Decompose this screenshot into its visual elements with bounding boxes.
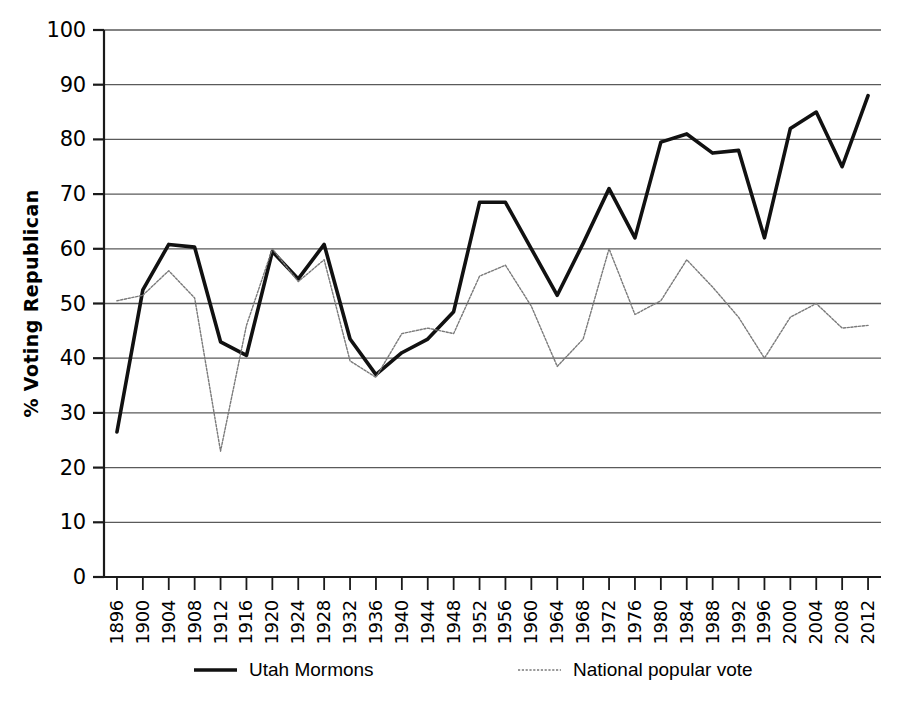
- x-tick-label: 1920: [261, 600, 282, 645]
- y-tick-label: 60: [60, 237, 86, 261]
- x-tick-label: 1908: [184, 600, 205, 645]
- y-axis-label: % Voting Republican: [20, 189, 42, 417]
- chart-legend: Utah MormonsNational popular vote: [194, 659, 753, 680]
- data-series-group: [117, 96, 868, 452]
- y-axis-ticks-group: 0102030405060708090100: [47, 18, 104, 589]
- x-tick-label: 1956: [494, 600, 515, 645]
- series-line-utah-mormons: [117, 96, 868, 432]
- line-chart: 0102030405060708090100 18961900190419081…: [0, 0, 910, 712]
- x-tick-label: 1924: [287, 600, 308, 645]
- x-tick-label: 1928: [313, 600, 334, 645]
- x-tick-label: 1996: [753, 600, 774, 645]
- y-tick-label: 50: [60, 292, 86, 316]
- x-tick-label: 1988: [702, 600, 723, 645]
- x-tick-label: 1980: [650, 600, 671, 645]
- x-tick-label: 1936: [365, 600, 386, 645]
- x-tick-label: 1904: [158, 600, 179, 645]
- x-tick-label: 1952: [469, 600, 490, 645]
- x-tick-label: 1900: [132, 600, 153, 645]
- x-tick-label: 2004: [805, 600, 826, 645]
- x-tick-label: 1976: [624, 600, 645, 645]
- y-tick-label: 80: [60, 127, 86, 151]
- x-tick-label: 1912: [210, 600, 231, 645]
- x-tick-label: 1916: [235, 600, 256, 645]
- legend-label-national-popular-vote: National popular vote: [573, 659, 753, 680]
- x-axis-ticks-group: 1896190019041908191219161920192419281932…: [106, 577, 878, 645]
- legend-label-utah-mormons: Utah Mormons: [249, 659, 374, 680]
- y-tick-label: 70: [60, 182, 86, 206]
- y-tick-label: 10: [60, 510, 86, 534]
- y-tick-label: 100: [47, 18, 86, 42]
- x-tick-label: 2008: [831, 600, 852, 645]
- x-tick-label: 1948: [443, 600, 464, 645]
- gridlines-group: [104, 30, 881, 577]
- y-tick-label: 40: [60, 346, 86, 370]
- x-tick-label: 1896: [106, 600, 127, 645]
- y-tick-label: 30: [60, 401, 86, 425]
- x-tick-label: 2000: [779, 600, 800, 645]
- x-tick-label: 1944: [417, 600, 438, 645]
- x-tick-label: 1964: [546, 600, 567, 645]
- x-tick-label: 1960: [520, 600, 541, 645]
- y-tick-label: 20: [60, 456, 86, 480]
- x-tick-label: 1992: [728, 600, 749, 645]
- x-tick-label: 1932: [339, 600, 360, 645]
- y-tick-label: 90: [60, 73, 86, 97]
- x-tick-label: 1984: [676, 600, 697, 645]
- series-line-national-popular-vote: [117, 249, 868, 451]
- x-tick-label: 1968: [572, 600, 593, 645]
- y-axis-title: % Voting Republican: [20, 189, 42, 417]
- x-tick-label: 1972: [598, 600, 619, 645]
- chart-container: 0102030405060708090100 18961900190419081…: [0, 0, 910, 712]
- x-tick-label: 2012: [857, 600, 878, 645]
- x-tick-label: 1940: [391, 600, 412, 645]
- y-tick-label: 0: [73, 565, 86, 589]
